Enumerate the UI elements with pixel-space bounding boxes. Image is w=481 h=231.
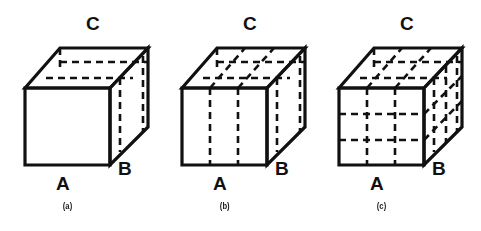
figure-root: C A B (a) — [0, 0, 481, 231]
box-diagram-c — [314, 0, 481, 231]
division-top-oblique-1-c — [367, 48, 402, 88]
front-face-outline-b — [182, 88, 267, 165]
panel-caption-a: (a) — [63, 202, 72, 211]
dimension-label-c-c: C — [400, 14, 414, 33]
figure-panel-a: C A B (a) — [0, 0, 161, 231]
panel-caption-c: (c) — [377, 202, 386, 211]
dimension-label-a-c: A — [370, 174, 384, 193]
dimension-label-a-a: A — [56, 174, 70, 193]
figure-panel-c: C A B (c) — [314, 0, 475, 231]
figure-panel-b: C A B (b) — [157, 0, 318, 231]
dimension-label-b-a: B — [118, 159, 132, 178]
dimension-label-b-c: B — [432, 159, 446, 178]
front-face-outline-c — [339, 88, 424, 165]
dimension-label-c-a: C — [86, 14, 100, 33]
box-diagram-b — [157, 0, 318, 231]
division-top-oblique-1-b — [210, 48, 245, 88]
box-diagram-a — [0, 0, 161, 231]
division-top-oblique-2-b — [238, 48, 274, 88]
division-top-oblique-2-c — [395, 48, 431, 88]
front-face-outline-a — [25, 88, 110, 165]
dimension-label-c-b: C — [243, 14, 257, 33]
dimension-label-a-b: A — [213, 174, 227, 193]
dimension-label-b-b: B — [275, 159, 289, 178]
panel-caption-b: (b) — [220, 202, 230, 211]
